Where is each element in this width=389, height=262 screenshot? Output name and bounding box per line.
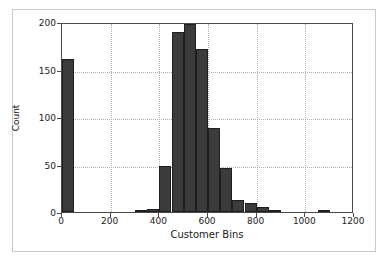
x-tick-mark [61, 213, 62, 217]
x-tick-mark [353, 213, 354, 217]
y-tick-mark [57, 71, 61, 72]
histogram-bar [147, 209, 159, 212]
histogram-bar [196, 49, 208, 212]
histogram-bar [245, 203, 257, 213]
y-tick-label: 200 [4, 19, 56, 28]
x-tick-label: 0 [39, 216, 83, 226]
x-tick-mark [207, 213, 208, 217]
histogram-bar [135, 210, 147, 212]
x-tick-label: 1200 [331, 216, 375, 226]
y-axis-label: Count [11, 105, 21, 132]
gridline-vertical [111, 24, 112, 212]
x-axis-tick-labels: 020040060080010001200 [61, 216, 353, 228]
plot-area [61, 23, 353, 213]
x-tick-mark [158, 213, 159, 217]
figure: 050100150200 020040060080010001200 Custo… [0, 0, 389, 262]
histogram-bar [208, 128, 220, 212]
histogram-bar [62, 59, 74, 212]
histogram-bar [232, 200, 244, 212]
gridline-vertical [257, 24, 258, 212]
y-axis-tick-labels: 050100150200 [0, 23, 56, 213]
y-tick-mark [57, 118, 61, 119]
y-tick-mark [57, 166, 61, 167]
x-tick-mark [256, 213, 257, 217]
x-tick-label: 200 [88, 216, 132, 226]
y-tick-label: 150 [4, 66, 56, 75]
histogram-bar [184, 24, 196, 212]
gridline-vertical [305, 24, 306, 212]
x-tick-label: 800 [234, 216, 278, 226]
histogram-bar [159, 166, 171, 212]
x-tick-label: 1000 [282, 216, 326, 226]
x-tick-label: 400 [136, 216, 180, 226]
histogram-bar [318, 210, 330, 212]
x-axis-label: Customer Bins [61, 229, 353, 240]
histogram-bar [220, 168, 232, 212]
y-tick-label: 50 [4, 161, 56, 170]
x-tick-mark [304, 213, 305, 217]
histogram-bar [172, 32, 184, 213]
histogram-bar [269, 210, 281, 212]
y-tick-mark [57, 23, 61, 24]
x-tick-mark [110, 213, 111, 217]
x-tick-label: 600 [185, 216, 229, 226]
histogram-bar [257, 207, 269, 212]
